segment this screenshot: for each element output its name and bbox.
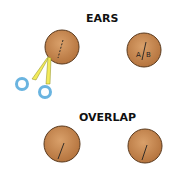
overlap-dough-circle-1-icon: [44, 126, 80, 162]
scissors-icon: [17, 57, 52, 98]
label-a: A: [136, 51, 141, 59]
overlap-dough-circle-2-icon: [128, 129, 162, 163]
diagram-canvas: A B: [0, 0, 177, 183]
ears-dough-circle-ab-icon: A B: [127, 33, 161, 67]
label-b: B: [146, 51, 151, 59]
